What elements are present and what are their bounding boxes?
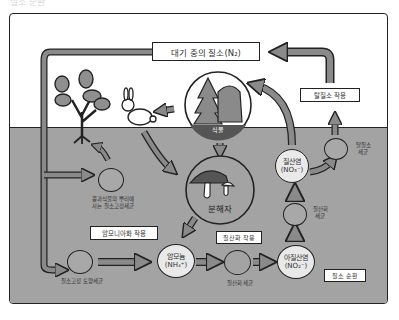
ammonification-box: 암모니아화 작용 (90, 226, 158, 240)
nitrate-node: 질산염 (NO₃⁻) (275, 149, 309, 183)
atmosphere-nitrogen-label: 대기 중의 질소(N₂) (171, 46, 241, 58)
legume-bacteria-line2: 사는 질소고정세균 (83, 203, 143, 210)
ammonium-name: 암모늄 (167, 253, 185, 261)
legend-label: 질소 순환 (332, 271, 358, 280)
ammonification-label: 암모니아화 작용 (102, 228, 146, 238)
nitrifying-bacteria-label: 질산화 세균 (220, 280, 260, 287)
denitrification-box: 탈질소 작용 (300, 88, 360, 102)
decomposer-label: 분해자 (200, 204, 240, 215)
nitrifying-bacteria-node (224, 250, 251, 275)
atmosphere-nitrogen-box: 대기 중의 질소(N₂) (152, 42, 260, 61)
nitrite-name: 아질산염 (284, 254, 308, 262)
denitrifying-bacteria-node (324, 138, 348, 160)
legume-bacteria-node (98, 168, 124, 192)
legend-box: 질소 순환 (324, 269, 366, 282)
plant-label: 식물 (207, 126, 229, 134)
ammonium-node: 암모늄 (NH₄⁺) (157, 244, 195, 278)
soil-fixing-bacteria-label: 질소고정 토양세균 (52, 278, 112, 285)
nitrification-label: 질산화 작용 (223, 233, 255, 242)
denitrifying-bacteria-label: 탈질소 세균 (352, 142, 374, 157)
nitrite-formula: (NO₂⁻) (285, 262, 308, 270)
nitrite-node: 아질산염 (NO₂⁻) (277, 245, 315, 279)
legume-bacteria-label: 콩과식물의 뿌리에 사는 질소고정세균 (83, 196, 143, 211)
nitrite-bacteria-node (283, 203, 307, 226)
nitrate-formula: (NO₃⁻) (281, 166, 304, 174)
denitrifying-line2: 세균 (352, 149, 374, 156)
nitrite-bacteria-line2: 세균 (309, 213, 331, 220)
soil-fixing-bacteria-node (67, 250, 93, 274)
nitrogen-cycle-diagram: 질소 순환 (0, 0, 399, 320)
nitrate-name: 질산염 (283, 158, 301, 166)
nitrite-bacteria-label: 질산화 세균 (309, 206, 331, 221)
ammonium-formula: (NH₄⁺) (165, 261, 187, 269)
nitrification-box: 질산화 작용 (216, 231, 262, 244)
diagram-title: 질소 순환 (10, 0, 45, 6)
denitrification-label: 탈질소 작용 (314, 90, 346, 100)
